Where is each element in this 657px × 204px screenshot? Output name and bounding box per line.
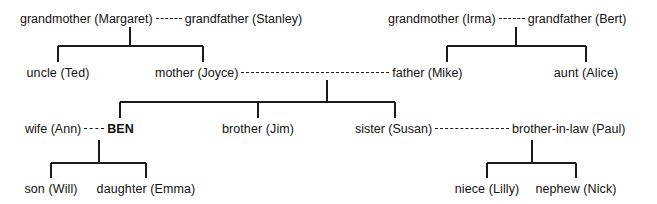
couple-susan-paul: sister (Susan) brother-in-law (Paul): [355, 122, 625, 136]
node-nephew-nick[interactable]: nephew (Nick): [535, 182, 616, 196]
node-uncle-ted[interactable]: uncle (Ted): [27, 66, 90, 80]
node-aunt-alice[interactable]: aunt (Alice): [554, 66, 618, 80]
node-sister-susan[interactable]: sister (Susan): [355, 122, 432, 136]
marriage-line-susan-paul: [435, 128, 509, 129]
node-brother-jim[interactable]: brother (Jim): [222, 122, 294, 136]
node-wife-ann[interactable]: wife (Ann): [25, 122, 81, 136]
family-tree-diagram: grandmother (Margaret) grandfather (Stan…: [0, 0, 657, 204]
connector-lines: [0, 0, 657, 204]
node-son-will[interactable]: son (Will): [24, 182, 77, 196]
node-grandfather-stanley[interactable]: grandfather (Stanley): [185, 12, 302, 26]
marriage-line-ann-ben: [84, 128, 104, 129]
node-grandfather-bert[interactable]: grandfather (Bert): [528, 12, 627, 26]
node-mother-joyce[interactable]: mother (Joyce): [155, 66, 238, 80]
node-father-mike[interactable]: father (Mike): [392, 66, 462, 80]
node-ben[interactable]: BEN: [107, 122, 133, 136]
node-grandmother-margaret[interactable]: grandmother (Margaret): [20, 12, 153, 26]
node-brother-in-law-paul[interactable]: brother-in-law (Paul): [512, 122, 625, 136]
marriage-line-margaret-stanley: [156, 18, 182, 19]
node-daughter-emma[interactable]: daughter (Emma): [97, 182, 196, 196]
couple-joyce-mike: mother (Joyce) father (Mike): [155, 66, 463, 80]
node-niece-lilly[interactable]: niece (Lilly): [455, 182, 520, 196]
couple-ann-ben: wife (Ann) BEN: [25, 122, 134, 136]
marriage-line-joyce-mike: [241, 72, 389, 73]
marriage-line-irma-bert: [499, 18, 525, 19]
couple-irma-bert: grandmother (Irma) grandfather (Bert): [388, 12, 626, 26]
node-grandmother-irma[interactable]: grandmother (Irma): [388, 12, 496, 26]
couple-margaret-stanley: grandmother (Margaret) grandfather (Stan…: [20, 12, 302, 26]
